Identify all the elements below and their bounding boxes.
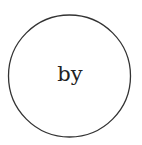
node-label: by bbox=[57, 62, 82, 86]
diagram-canvas: by bbox=[0, 0, 142, 145]
